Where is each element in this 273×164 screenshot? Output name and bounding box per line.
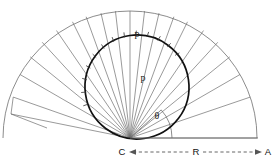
circle-tick — [124, 32, 125, 37]
circle-tick — [83, 104, 88, 106]
fan-ray — [42, 42, 130, 138]
fan-ray — [11, 114, 130, 138]
fan-ray — [20, 75, 130, 139]
fan-inner-chord — [11, 114, 47, 128]
fan-ray — [101, 13, 130, 138]
label-center-point: C — [119, 146, 126, 157]
label-p-upper: p — [135, 28, 140, 39]
label-apex-point: A — [265, 146, 272, 157]
fan-ray — [130, 31, 203, 138]
label-theta: θ — [155, 110, 160, 121]
fan-inner-chord — [11, 97, 13, 114]
label-p-lower: p — [141, 72, 146, 83]
figure-canvas: A ============ --> p p θ C R A — [0, 0, 273, 164]
fan-ray — [57, 31, 130, 138]
fan-inner-chords — [11, 97, 47, 128]
dimension-arrow-left — [129, 149, 136, 155]
fan-group — [3, 11, 257, 138]
label-radius-dimension: R — [193, 146, 200, 157]
fan-ray — [115, 11, 130, 138]
polar-circle-figure: A ============ --> p p θ C R A — [0, 0, 273, 164]
dimension-arrow-right — [255, 149, 262, 155]
